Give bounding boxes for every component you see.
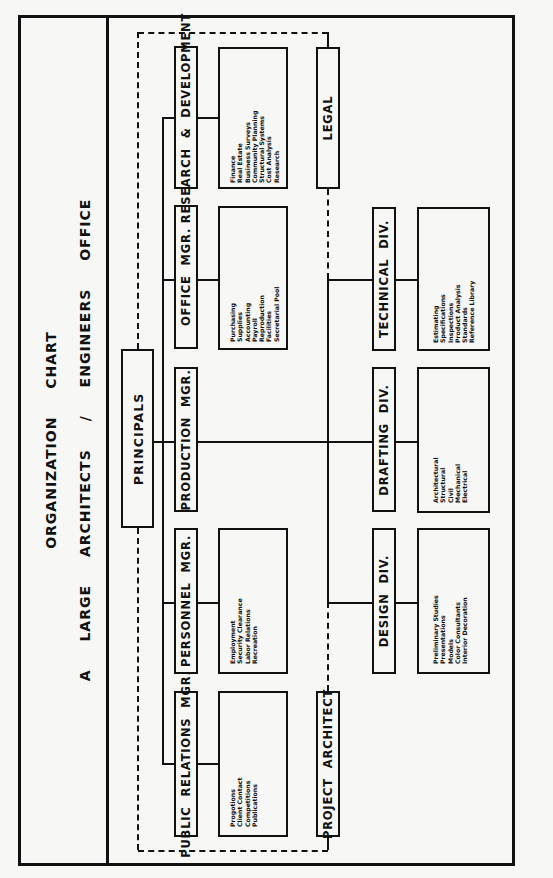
design-functions-box: Preliminary StudiesPresentationsModelsCo… <box>417 528 490 674</box>
staff-dashed-left-upper <box>137 32 139 349</box>
public-relations-functions-list: ProgotionsClient ContactCompetitionsPubl… <box>229 778 258 827</box>
division-bus-line <box>327 279 329 602</box>
public-relations-mgr-box[interactable]: PUBLIC RELATIONS MGR. <box>174 691 198 837</box>
drafting-to-functions <box>396 441 417 443</box>
drafting-div-label: DRAFTING DIV. <box>377 384 391 495</box>
title-line-2-panel: A LARGE ARCHITECTS / ENGINEERS OFFICE <box>70 240 100 640</box>
legal-label: LEGAL <box>321 96 335 141</box>
chart-subtitle: A LARGE ARCHITECTS / ENGINEERS OFFICE <box>77 199 93 682</box>
personnel-to-functions <box>198 602 218 604</box>
technical-div-label: TECHNICAL DIV. <box>377 220 391 338</box>
staff-dashed-left-lower <box>137 528 139 850</box>
personnel-mgr-box[interactable]: PERSONNEL MGR. <box>174 528 198 674</box>
staff-dashed-center-upper <box>327 189 329 279</box>
research-to-functions <box>198 117 218 119</box>
title-divider <box>106 15 109 866</box>
production-mgr-label: PRODUCTION MGR. <box>179 369 193 510</box>
technical-functions-box: EstimatingSpecificationsInspectionsProdu… <box>417 207 490 351</box>
office-mgr-box[interactable]: OFFICE MGR. <box>174 205 198 349</box>
bus-to-research <box>162 117 174 119</box>
principals-to-bus <box>154 441 174 443</box>
staff-dashed-top <box>138 32 328 34</box>
research-functions-box: FinanceReal EstateBusiness SurveysCommun… <box>218 47 288 189</box>
technical-functions-list: EstimatingSpecificationsInspectionsProdu… <box>432 281 476 343</box>
design-functions-list: Preliminary StudiesPresentationsModelsCo… <box>432 595 468 664</box>
technical-to-functions <box>396 279 417 281</box>
production-to-drafting <box>198 441 372 443</box>
research-development-label: RESEARCH & DEVELOPMENT <box>179 12 193 222</box>
drafting-functions-box: ArchitecturalStructuralCivilMechanicalEl… <box>417 367 490 513</box>
personnel-functions-list: EmploymentSecurity ClearanceLabor Relati… <box>229 598 258 664</box>
design-to-functions <box>396 602 417 604</box>
office-mgr-label: OFFICE MGR. <box>179 228 193 326</box>
office-functions-box: PurchasingSuppliesAccountingPayrollRepro… <box>218 206 288 350</box>
technical-div-box[interactable]: TECHNICAL DIV. <box>372 207 396 351</box>
design-div-label: DESIGN DIV. <box>377 555 391 647</box>
staff-dashed-bottom <box>138 850 328 852</box>
title-line-1-panel: ORGANIZATION CHART <box>36 260 66 620</box>
office-to-functions <box>198 279 218 281</box>
public-relations-to-functions <box>198 763 218 765</box>
research-development-box[interactable]: RESEARCH & DEVELOPMENT <box>174 46 198 189</box>
drafting-div-box[interactable]: DRAFTING DIV. <box>372 367 396 512</box>
bus-to-personnel <box>162 602 174 604</box>
bus-to-design <box>327 602 372 604</box>
staff-dashed-center-lower <box>327 602 329 691</box>
bus-to-public-relations <box>162 763 174 765</box>
public-relations-mgr-label: PUBLIC RELATIONS MGR. <box>179 670 193 858</box>
principals-box[interactable]: PRINCIPALS <box>121 349 154 528</box>
bus-to-technical <box>327 279 372 281</box>
design-div-box[interactable]: DESIGN DIV. <box>372 528 396 674</box>
production-mgr-box[interactable]: PRODUCTION MGR. <box>174 367 198 512</box>
staff-dashed-top-drop <box>327 32 329 47</box>
research-functions-list: FinanceReal EstateBusiness SurveysCommun… <box>229 111 280 183</box>
public-relations-functions-box: ProgotionsClient ContactCompetitionsPubl… <box>218 691 288 837</box>
personnel-mgr-label: PERSONNEL MGR. <box>179 535 193 667</box>
principals-label: PRINCIPALS <box>130 392 145 484</box>
chart-title: ORGANIZATION CHART <box>43 331 59 549</box>
drafting-functions-list: ArchitecturalStructuralCivilMechanicalEl… <box>432 457 468 503</box>
legal-box[interactable]: LEGAL <box>316 47 340 189</box>
bus-to-office <box>162 279 174 281</box>
project-architect-label: PROJECT ARCHITECT <box>321 689 335 839</box>
personnel-functions-box: EmploymentSecurity ClearanceLabor Relati… <box>218 528 288 674</box>
project-architect-box[interactable]: PROJECT ARCHITECT <box>316 691 340 837</box>
office-functions-list: PurchasingSuppliesAccountingPayrollRepro… <box>229 287 280 342</box>
